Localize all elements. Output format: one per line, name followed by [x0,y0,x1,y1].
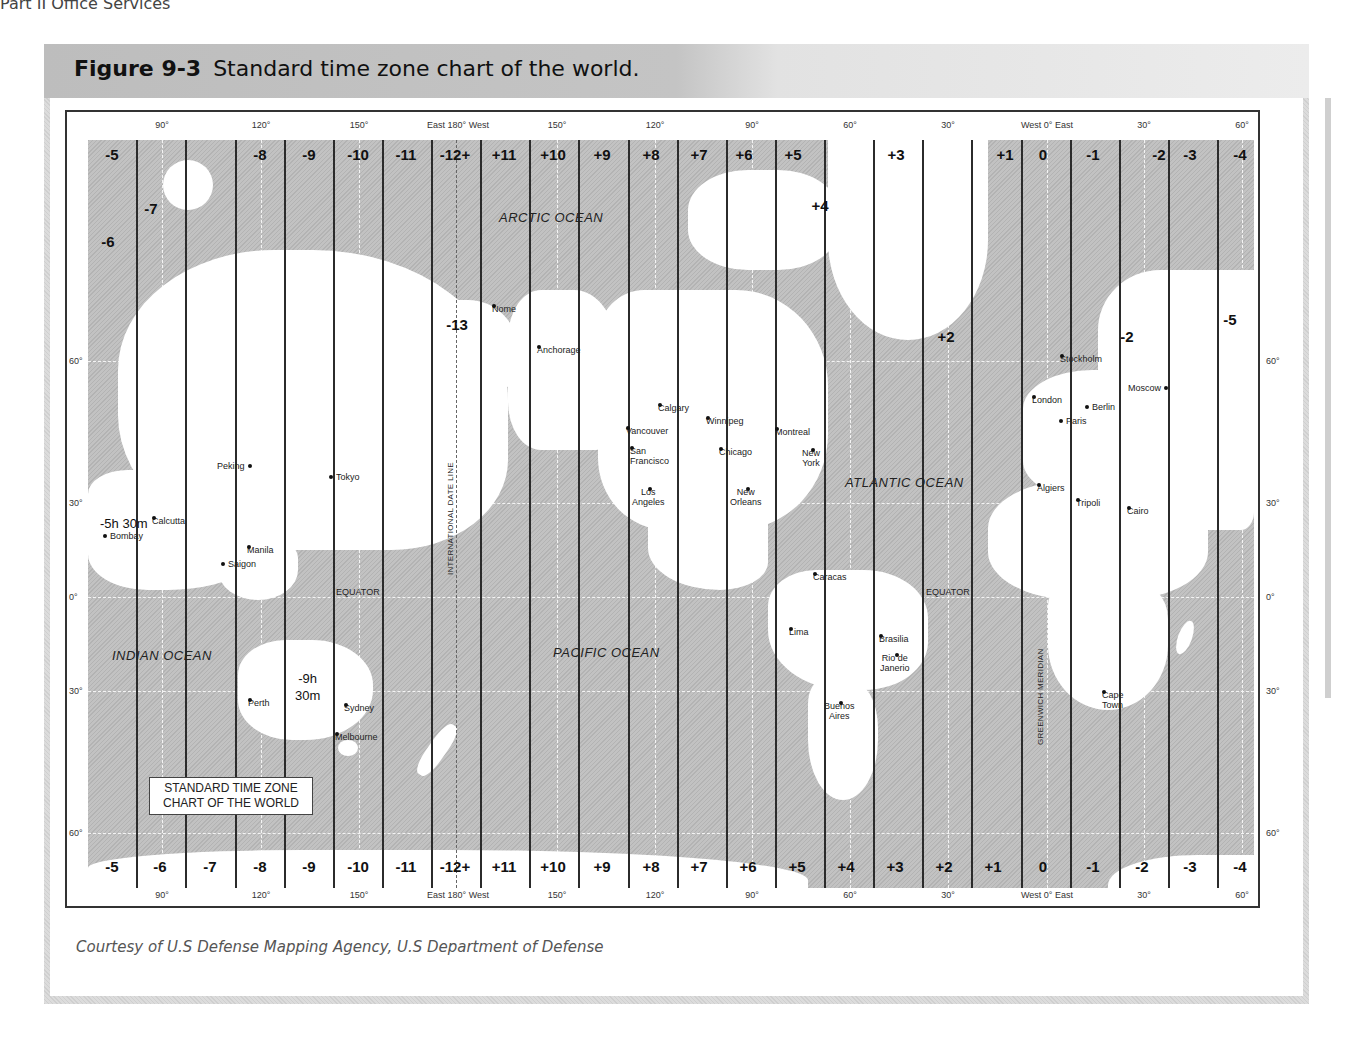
zone-label: 0 [1039,858,1047,875]
latitude-label: 30° [69,686,83,696]
city-line: Aires [824,711,855,721]
city-line: Town [1102,700,1124,710]
figure-title-text: Standard time zone chart of the world. [213,56,639,81]
longitude-label: 90° [155,120,169,130]
latitude-label: 0° [69,592,78,602]
zone-label: +1 [996,146,1013,163]
zone-boundary [235,140,237,888]
latitude-label: 60° [1266,356,1280,366]
latitude-label: 60° [1266,828,1280,838]
city-line: York [802,458,820,468]
city-caracas: Caracas [813,572,847,582]
city-new-york: NewYork [802,448,820,468]
longitude-label: East 180° West [427,120,489,130]
zone-label: -9 [302,146,315,163]
zone-label: +7 [690,146,707,163]
longitude-label: 90° [155,890,169,900]
zone-label: +1 [984,858,1001,875]
longitude-label: 150° [350,120,369,130]
zone-label: +6 [735,146,752,163]
zone-boundary [136,140,138,888]
city-brasilia: Brasilia [879,634,909,644]
zone-boundary [1168,140,1170,888]
longitude-label: 30° [941,120,955,130]
meridian-line [557,140,558,888]
zone-label: +2 [935,858,952,875]
city-moscow: Moscow [1128,383,1161,393]
zone-boundary [185,140,187,888]
zone-label: -10 [347,858,369,875]
city-cairo: Cairo [1127,506,1149,516]
zone-label: -11 [396,858,417,875]
longitude-label: 30° [941,890,955,900]
longitude-label: West 0° East [1021,890,1073,900]
zone-label: +8 [642,858,659,875]
landmass-arctic-island [163,160,213,210]
ocean-label-pacific: PACIFIC OCEAN [553,645,660,660]
equator-label: EQUATOR [336,587,380,597]
zone-boundary [1070,140,1072,888]
city-chicago: Chicago [719,447,752,457]
city-nome: Nome [492,304,516,314]
latitude-label: 60° [69,828,83,838]
landmass-greenland [828,140,988,340]
zone-label-inner: +4 [811,197,828,214]
longitude-label: 120° [646,890,665,900]
longitude-label: 30° [1137,890,1151,900]
zone-label: +4 [837,858,854,875]
zone-label-inner: -7 [144,200,157,217]
edge-strip [1325,98,1331,698]
international-date-line-label: INTERNATIONAL DATE LINE [446,462,455,575]
landmass-south-america-south [808,680,878,800]
latitude-label: 0° [1266,592,1275,602]
city-calcutta: Calcutta [152,516,185,526]
city-tripoli: Tripoli [1076,498,1100,508]
city-rio-de-janeiro: Rio deJanerio [880,653,910,673]
zone-label-inner: +2 [937,328,954,345]
zone-label: -11 [396,146,417,163]
zone-label: +3 [886,858,903,875]
longitude-label: 30° [1137,120,1151,130]
figure-caption: Courtesy of U.S Defense Mapping Agency, … [76,938,604,956]
zone-label: -6 [153,858,166,875]
world-time-zone-map [88,140,1254,888]
date-line [456,140,457,888]
zone-boundary [824,140,826,888]
equator-label: EQUATOR [926,587,970,597]
city-line: Janerio [880,663,910,673]
city-tokyo: Tokyo [336,472,360,482]
landmass-middle-east [1188,440,1254,530]
longitude-label: 120° [252,890,271,900]
city-peking: Peking [217,461,245,471]
landmass-antarctica-east [1108,855,1254,888]
longitude-label: 90° [745,890,759,900]
legend-line-2: CHART OF THE WORLD [150,796,312,811]
landmass-madagascar [1172,619,1197,657]
figure-number: Figure 9-3 [74,56,201,81]
zone-boundary [382,140,384,888]
city-melbourne: Melbourne [335,732,378,742]
city-vancouver: Vancouver [626,426,668,436]
longitude-label: 120° [252,120,271,130]
city-line: Orleans [730,497,762,507]
ocean-label-indian: INDIAN OCEAN [112,648,212,663]
zone-label: -12+ [440,146,470,163]
zone-label: -5 [105,146,118,163]
page-header: Part II Office Services [0,0,170,13]
latitude-label: 30° [1266,686,1280,696]
zone-label: -4 [1233,146,1246,163]
australia-offset-line2: 30m [295,687,320,704]
city-line: Francisco [630,456,669,466]
city-paris: Paris [1066,416,1087,426]
latitude-label: 30° [69,498,83,508]
zone-boundary [1119,140,1121,888]
zone-boundary [333,140,335,888]
ocean-label-arctic: ARCTIC OCEAN [499,210,603,225]
zone-boundary [284,140,286,888]
landmass-tasmania [338,740,358,756]
city-line: Angeles [632,497,665,507]
longitude-label: 150° [548,120,567,130]
city-lima: Lima [789,627,809,637]
longitude-label: 60° [843,120,857,130]
longitude-label: 90° [745,120,759,130]
